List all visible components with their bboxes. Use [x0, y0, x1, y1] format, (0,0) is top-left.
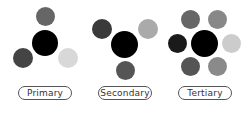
- satellite-circle-icon: [181, 10, 200, 29]
- satellite-circle-icon: [116, 61, 135, 80]
- satellite-circle-icon: [208, 10, 227, 29]
- center-circle-icon: [32, 30, 58, 56]
- secondary-label: Secondary: [98, 86, 152, 100]
- center-circle-icon: [111, 31, 138, 58]
- satellite-circle-icon: [168, 34, 187, 53]
- satellite-circle-icon: [138, 19, 158, 39]
- satellite-circle-icon: [222, 34, 241, 53]
- primary-label: Primary: [18, 86, 72, 100]
- tertiary-label: Tertiary: [178, 86, 232, 100]
- satellite-circle-icon: [92, 19, 112, 39]
- satellite-circle-icon: [13, 48, 33, 68]
- satellite-circle-icon: [58, 48, 78, 68]
- satellite-circle-icon: [208, 57, 227, 76]
- center-circle-icon: [191, 30, 218, 57]
- satellite-circle-icon: [181, 57, 200, 76]
- satellite-circle-icon: [36, 7, 55, 26]
